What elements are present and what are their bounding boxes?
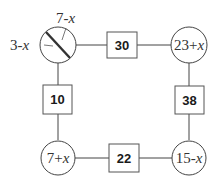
circle-box-diagram: 3-x 7-x 23+x 7+x 15-x 30 10 38 22: [0, 0, 220, 188]
circle-bottom-left: 7+x: [41, 141, 75, 175]
circle-label: 15-x: [176, 150, 203, 166]
sector-label-left: 3-x: [10, 37, 30, 53]
sector-label-top: 7-x: [56, 10, 76, 26]
box-right: 38: [175, 86, 204, 114]
circle-top-left: 3-x 7-x: [10, 10, 76, 63]
circle-top-right: 23+x: [171, 27, 207, 63]
box-left: 10: [43, 85, 72, 114]
box-value: 38: [182, 93, 196, 108]
box-value: 22: [117, 151, 131, 166]
box-value: 10: [50, 92, 64, 107]
box-value: 30: [115, 38, 129, 53]
box-top: 30: [107, 32, 137, 58]
circle-label: 23+x: [174, 37, 204, 53]
box-bottom: 22: [109, 144, 139, 172]
connector-lines: [58, 45, 189, 158]
circle-label: 7+x: [47, 150, 70, 166]
circle-bottom-right: 15-x: [172, 141, 206, 175]
